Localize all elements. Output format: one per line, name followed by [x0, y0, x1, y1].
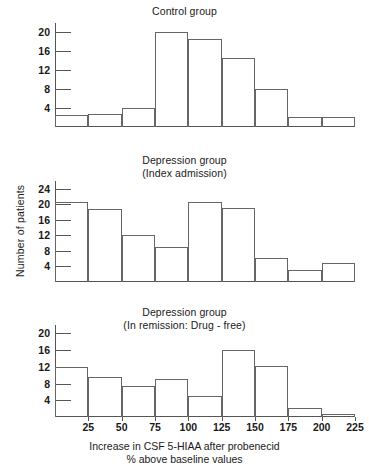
- bars-depression-index: [55, 181, 355, 282]
- x-tick-label: 25: [82, 422, 94, 433]
- histogram-bar: [222, 208, 255, 282]
- y-tick-label: 16: [38, 215, 50, 226]
- x-tick-label: 200: [313, 422, 331, 433]
- histogram-bar: [322, 117, 355, 127]
- histogram-bar: [55, 367, 88, 417]
- x-axis-caption: Increase in CSF 5-HIAA after probenecid …: [0, 440, 369, 466]
- histogram-bar: [322, 263, 355, 282]
- x-tick-label: 175: [280, 422, 298, 433]
- histogram-bar: [55, 202, 88, 282]
- panel-depression-remission: Depression group (In remission: Drug - f…: [0, 305, 369, 473]
- plot-area-depression-index: 4812162024: [55, 181, 355, 282]
- histogram-bar: [155, 247, 188, 282]
- histogram-bar: [255, 89, 288, 127]
- y-tick-label: 24: [38, 184, 50, 195]
- histogram-bar: [55, 115, 88, 127]
- chart-title-line1: Control group: [152, 5, 217, 17]
- y-tick-label: 4: [44, 395, 50, 406]
- histogram-bar: [222, 58, 255, 127]
- histogram-bar: [288, 270, 321, 282]
- y-tick-label: 12: [38, 230, 50, 241]
- y-tick-label: 4: [44, 261, 50, 272]
- x-axis-caption-line1: Increase in CSF 5-HIAA after probenecid: [89, 440, 279, 452]
- x-tick-label: 100: [180, 422, 198, 433]
- x-axis-caption-line2: % above baseline values: [0, 453, 369, 466]
- histogram-bar: [122, 386, 155, 417]
- histogram-bar: [188, 202, 221, 282]
- chart-title-control-group: Control group: [0, 5, 369, 18]
- x-tick-label: 125: [213, 422, 231, 433]
- x-tick-label: 50: [116, 422, 128, 433]
- histogram-bar: [222, 350, 255, 417]
- x-tick-label: 150: [246, 422, 264, 433]
- histogram-bar: [122, 235, 155, 282]
- chart-title-line2: (Index admission): [0, 167, 369, 180]
- chart-title-line1: Depression group: [142, 154, 226, 166]
- y-tick-label: 12: [38, 65, 50, 76]
- histogram-bar: [155, 32, 188, 127]
- histogram-bar: [288, 117, 321, 127]
- plot-area-depression-remission: 48121620 255075100125150175200225: [55, 325, 355, 417]
- histogram-bar: [288, 408, 321, 417]
- bars-depression-remission: [55, 325, 355, 417]
- histogram-bar: [122, 108, 155, 127]
- plot-area-control-group: 48121620: [55, 23, 355, 127]
- histogram-bar: [255, 366, 288, 417]
- bars-control-group: [55, 23, 355, 127]
- y-tick-label: 20: [38, 27, 50, 38]
- y-tick-label: 20: [38, 199, 50, 210]
- y-tick-label: 12: [38, 362, 50, 373]
- y-tick-label: 16: [38, 345, 50, 356]
- chart-title-depression-index: Depression group (Index admission): [0, 154, 369, 179]
- histogram-bar: [88, 377, 121, 417]
- x-tick-label: 75: [149, 422, 161, 433]
- histogram-figure: Control group 48121620 Depression group …: [0, 0, 369, 473]
- y-axis-title: Number of patients: [14, 185, 26, 277]
- y-tick-label: 8: [44, 379, 50, 390]
- histogram-bar: [255, 258, 288, 282]
- y-tick-label: 8: [44, 84, 50, 95]
- panel-control-group: Control group 48121620: [0, 0, 369, 150]
- histogram-bar: [188, 396, 221, 417]
- y-tick-label: 8: [44, 246, 50, 257]
- y-tick-label: 20: [38, 328, 50, 339]
- x-tick-label: 225: [346, 422, 364, 433]
- y-tick-label: 16: [38, 46, 50, 57]
- histogram-bar: [188, 39, 221, 127]
- histogram-bar: [155, 379, 188, 417]
- histogram-bar: [88, 114, 121, 127]
- chart-title-line1: Depression group: [142, 306, 226, 318]
- y-tick-label: 4: [44, 103, 50, 114]
- panel-depression-index: Depression group (Index admission) Numbe…: [0, 150, 369, 305]
- histogram-bar: [88, 209, 121, 282]
